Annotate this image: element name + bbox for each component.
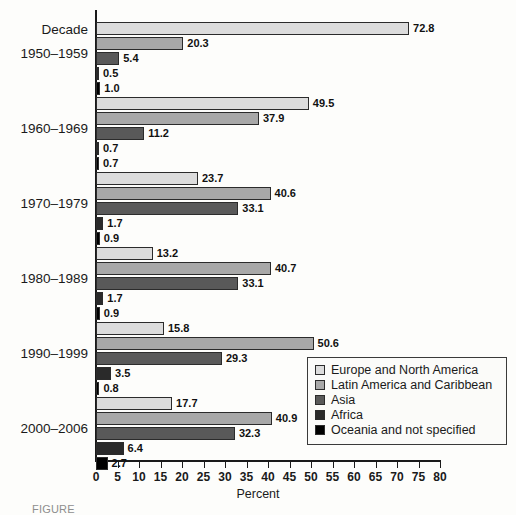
bar-value-label: 33.1: [242, 277, 263, 290]
bar-value-label: 0.5: [103, 67, 118, 80]
bar[interactable]: [96, 322, 164, 335]
bar[interactable]: [96, 307, 100, 320]
bar[interactable]: [96, 217, 103, 230]
bar[interactable]: [96, 382, 99, 395]
legend-item[interactable]: Asia: [315, 393, 499, 407]
bar[interactable]: [96, 247, 153, 260]
bar[interactable]: [96, 127, 144, 140]
bar[interactable]: [96, 232, 100, 245]
x-tick-label: 60: [347, 470, 360, 484]
bar[interactable]: [96, 112, 259, 125]
bar[interactable]: [96, 82, 100, 95]
bar-value-label: 1.0: [104, 82, 119, 95]
bar[interactable]: [96, 412, 272, 425]
bar-value-label: 2.7: [112, 457, 127, 470]
bar[interactable]: [96, 172, 198, 185]
bar[interactable]: [96, 97, 309, 110]
bar-value-label: 29.3: [226, 352, 247, 365]
bar[interactable]: [96, 277, 238, 290]
x-tick-label: 55: [326, 470, 339, 484]
x-tick-label: 35: [240, 470, 253, 484]
group-label: 1960–1969: [0, 121, 88, 136]
x-tick-label: 5: [114, 470, 121, 484]
bar-value-label: 3.5: [115, 367, 130, 380]
bar-value-label: 50.6: [318, 337, 339, 350]
group-label: 2000–2006: [0, 421, 88, 436]
legend-item[interactable]: Oceania and not specified: [315, 423, 499, 437]
bar-value-label: 0.9: [104, 232, 119, 245]
legend-swatch-icon: [315, 395, 325, 405]
x-axis-title: Percent: [0, 487, 516, 501]
bar[interactable]: [96, 22, 409, 35]
x-tick: [376, 462, 377, 468]
group-label: 1990–1999: [0, 346, 88, 361]
group-label: 1950–1959: [0, 46, 88, 61]
bar[interactable]: [96, 427, 235, 440]
bar[interactable]: [96, 442, 124, 455]
legend-swatch-icon: [315, 410, 325, 420]
bar[interactable]: [96, 292, 103, 305]
legend-label: Europe and North America: [331, 363, 478, 377]
bar-value-label: 37.9: [263, 112, 284, 125]
x-tick: [161, 462, 162, 468]
bar-value-label: 40.9: [276, 412, 297, 425]
bar[interactable]: [96, 457, 108, 470]
bar-value-label: 20.3: [187, 37, 208, 50]
bar-chart: 05101520253035404550556065707580 Decade1…: [0, 0, 516, 515]
bar-value-label: 0.7: [103, 157, 118, 170]
x-tick: [139, 462, 140, 468]
y-axis-header: Decade: [0, 22, 88, 37]
bar-value-label: 11.2: [148, 127, 169, 140]
bar-value-label: 5.4: [123, 52, 138, 65]
x-tick: [268, 462, 269, 468]
x-tick: [225, 462, 226, 468]
bar[interactable]: [96, 352, 222, 365]
bar[interactable]: [96, 337, 314, 350]
bar-value-label: 0.7: [103, 142, 118, 155]
x-tick-label: 65: [369, 470, 382, 484]
legend-label: Asia: [331, 393, 355, 407]
legend-label: Oceania and not specified: [331, 423, 476, 437]
legend-label: Latin America and Caribbean: [331, 378, 492, 392]
bar[interactable]: [96, 52, 119, 65]
bar-value-label: 0.9: [104, 307, 119, 320]
legend-item[interactable]: Europe and North America: [315, 363, 499, 377]
x-tick-label: 50: [304, 470, 317, 484]
x-tick-label: 70: [390, 470, 403, 484]
bar[interactable]: [96, 37, 183, 50]
legend-items: Europe and North AmericaLatin America an…: [315, 363, 499, 437]
bar[interactable]: [96, 187, 271, 200]
legend-swatch-icon: [315, 365, 325, 375]
bar[interactable]: [96, 262, 271, 275]
x-tick-label: 45: [283, 470, 296, 484]
bar-value-label: 40.7: [275, 262, 296, 275]
bar-value-label: 15.8: [168, 322, 189, 335]
legend-item[interactable]: Africa: [315, 408, 499, 422]
x-tick: [354, 462, 355, 468]
bar-value-label: 23.7: [202, 172, 223, 185]
group-label: 1980–1989: [0, 271, 88, 286]
bar[interactable]: [96, 367, 111, 380]
x-tick-label: 30: [218, 470, 231, 484]
x-tick: [440, 462, 441, 468]
x-tick: [247, 462, 248, 468]
bar-value-label: 6.4: [128, 442, 143, 455]
bar-value-label: 1.7: [107, 217, 122, 230]
legend-swatch-icon: [315, 380, 325, 390]
x-tick: [311, 462, 312, 468]
legend-label: Africa: [331, 408, 363, 422]
bar-value-label: 40.6: [275, 187, 296, 200]
x-tick: [333, 462, 334, 468]
x-tick-label: 10: [132, 470, 145, 484]
bar[interactable]: [96, 202, 238, 215]
bar-value-label: 13.2: [157, 247, 178, 260]
bar[interactable]: [96, 67, 99, 80]
legend-item[interactable]: Latin America and Caribbean: [315, 378, 499, 392]
bar-value-label: 0.8: [103, 382, 118, 395]
x-tick: [419, 462, 420, 468]
bar[interactable]: [96, 157, 99, 170]
bar[interactable]: [96, 142, 99, 155]
bar-value-label: 32.3: [239, 427, 260, 440]
bar[interactable]: [96, 397, 172, 410]
x-tick: [182, 462, 183, 468]
